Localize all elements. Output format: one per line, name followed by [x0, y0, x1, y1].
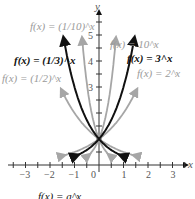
x-axis-label: x [187, 158, 193, 170]
y-tick-label: 4 [88, 56, 93, 67]
label-one-third: f(x) = (1/3)^x [14, 54, 76, 67]
x-tick-label: −1 [69, 169, 80, 180]
label-two: f(x) = 2^x [137, 67, 180, 80]
y-axis-label: y [94, 0, 100, 12]
caption: f(x) = a^x [38, 190, 81, 199]
x-tick-label: 0 [91, 169, 96, 180]
x-tick-label: 3 [171, 169, 176, 180]
label-one-half: f(x) = (1/2)^x [2, 72, 61, 85]
label-three: f(x) = 3^x [127, 52, 173, 65]
label-one-tenth: f(x) = (1/10)^x [30, 20, 95, 33]
x-tick-label: 1 [122, 169, 127, 180]
x-tick-label: 2 [146, 169, 151, 180]
label-ten: f(x) = 10^x [110, 38, 159, 51]
x-tick-label: −3 [20, 169, 31, 180]
x-tick-label: −2 [44, 169, 55, 180]
x-axis: −3−2−10123 [8, 162, 186, 180]
exponential-graph: −3−2−10123 345 x y f(x) = (1/10)^x f(x) … [0, 0, 195, 199]
